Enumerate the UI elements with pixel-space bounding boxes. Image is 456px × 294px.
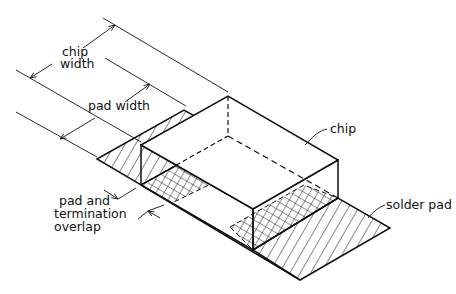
dimension-arrows — [30, 25, 164, 219]
chip-width-label-line2: width — [60, 56, 94, 71]
chip-label: chip — [330, 121, 356, 136]
overlap-label-line3: overlap — [54, 219, 101, 234]
pad-width-arrow-lower — [60, 118, 95, 139]
overlap-arrow-lower — [148, 211, 160, 218]
solder-pad-label: solder pad — [386, 197, 452, 212]
chip-pad-diagram: chip width pad width chip solder pad pad… — [0, 0, 456, 294]
chip-width-arrow-lower — [30, 64, 52, 78]
pad-width-label: pad width — [88, 98, 150, 113]
